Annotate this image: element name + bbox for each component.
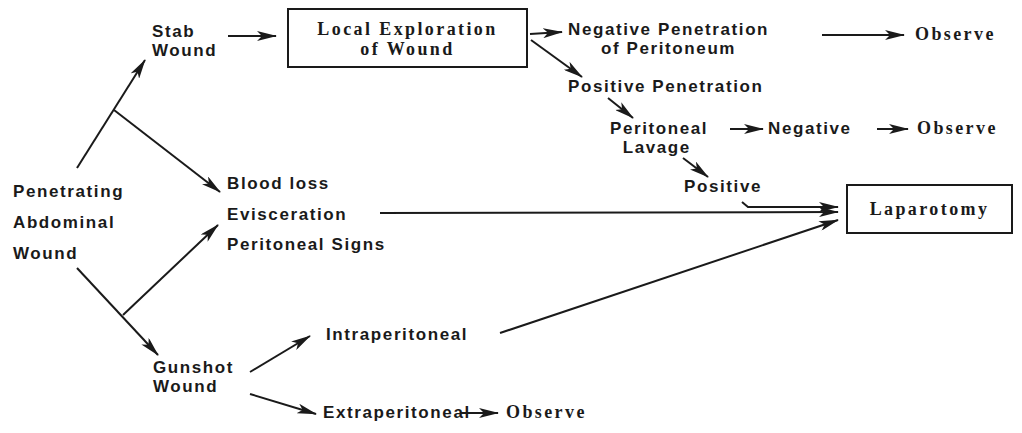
node-local-exploration-label: Local Exploration of Wound: [289, 19, 526, 59]
arrow-positive-to-laparotomy: [742, 202, 838, 207]
node-positive-penetration: Positive Penetration: [568, 77, 763, 96]
flowchart-canvas: Penetrating Abdominal Wound Stab Wound L…: [0, 0, 1022, 433]
arrow-positive-to-lavage: [608, 98, 633, 118]
node-lavage-negative: Negative: [768, 119, 852, 138]
node-observe-1: Observe: [915, 25, 996, 44]
node-intraperitoneal: Intraperitoneal: [326, 325, 468, 344]
arrow-start-to-gunshot: [77, 268, 158, 355]
node-penetrating-abdominal-wound: Penetrating Abdominal Wound: [13, 176, 124, 269]
node-negative-penetration: Negative Penetration of Peritoneum: [568, 20, 769, 58]
node-observe-3: Observe: [506, 403, 587, 422]
node-sign-evisceration: Evisceration: [227, 205, 347, 224]
node-laparotomy-box: Laparotomy: [846, 184, 1013, 234]
node-extraperitoneal: Extraperitoneal: [323, 403, 471, 422]
node-laparotomy-label: Laparotomy: [848, 200, 1011, 219]
arrow-start-to-signs: [114, 110, 220, 192]
node-lavage-positive: Positive: [684, 177, 762, 196]
arrow-start-to-stab: [77, 60, 145, 168]
node-local-exploration-box: Local Exploration of Wound: [287, 8, 528, 68]
node-sign-blood-loss: Blood loss: [227, 174, 330, 193]
node-stab-wound: Stab Wound: [152, 22, 217, 60]
arrow-lavage-to-positive: [683, 158, 708, 177]
arrow-gunshot-to-intraperitoneal: [250, 336, 310, 372]
node-peritoneal-lavage: Peritoneal Lavage: [610, 119, 708, 157]
arrow-exploration-to-negative: [530, 32, 562, 34]
node-gunshot-wound: Gunshot Wound: [153, 358, 234, 396]
arrow-gunshot-to-extraperitoneal: [250, 394, 316, 414]
node-observe-2: Observe: [917, 119, 998, 138]
node-sign-peritoneal-signs: Peritoneal Signs: [227, 235, 386, 254]
arrow-gunshot-branch-to-signs: [123, 225, 218, 315]
arrow-signs-to-laparotomy: [380, 212, 838, 213]
arrow-intraperitoneal-to-laparotomy: [500, 220, 838, 333]
